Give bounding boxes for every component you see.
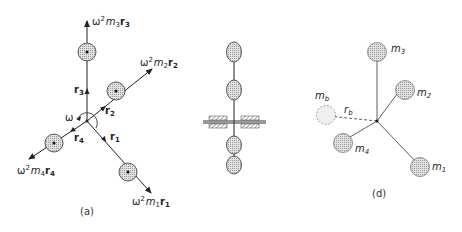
mass-d-balance <box>317 106 336 125</box>
mass-side-1 <box>227 156 242 174</box>
label-force-2: ω2m2r2 <box>140 56 178 70</box>
label-force-4: ω2m4r4 <box>17 164 55 178</box>
label-m1: m1 <box>432 161 446 174</box>
label-m4: m4 <box>355 143 369 156</box>
label-r3: r3 <box>74 84 84 97</box>
center-point <box>86 120 89 123</box>
panel-a: ω2m3r3 ω2m2r2 ω2m4r4 ω2m1r1 r3 r2 r4 r1 … <box>17 15 178 217</box>
bearing-right-bottom <box>241 124 259 128</box>
center-point-d <box>376 120 379 123</box>
mass-d-4 <box>334 134 353 153</box>
arm-1 <box>377 121 417 163</box>
label-omega: ω <box>65 112 73 123</box>
r3-arrowhead-icon <box>85 88 90 94</box>
figure-canvas: ω2m3r3 ω2m2r2 ω2m4r4 ω2m1r1 r3 r2 r4 r1 … <box>0 0 462 232</box>
bearing-left-top <box>209 116 227 120</box>
label-r2: r2 <box>105 105 115 118</box>
label-force-1: ω2m1r1 <box>132 195 170 209</box>
caption-a: (a) <box>80 206 94 217</box>
panel-d: m3 m2 m1 m4 mb rb (d) <box>315 43 446 200</box>
mass-side-2 <box>227 80 242 100</box>
mass-side-4 <box>227 136 242 154</box>
caption-d: (d) <box>372 188 386 199</box>
force-vector-1 <box>87 121 151 193</box>
label-force-3: ω2m3r3 <box>92 15 130 29</box>
mass-side-3 <box>227 42 242 62</box>
mass-d-2 <box>396 81 415 100</box>
mass-d-1 <box>411 158 430 177</box>
label-rb: rb <box>344 104 353 117</box>
label-m2: m2 <box>417 87 432 100</box>
label-m3: m3 <box>391 43 405 56</box>
bearing-right-top <box>241 116 259 120</box>
label-mb: mb <box>315 90 330 103</box>
panel-shaft-side-view <box>203 42 266 174</box>
mass-d-3 <box>368 43 387 62</box>
bearing-left-bottom <box>209 124 227 128</box>
label-r4: r4 <box>74 132 84 145</box>
label-r1: r1 <box>110 131 120 144</box>
